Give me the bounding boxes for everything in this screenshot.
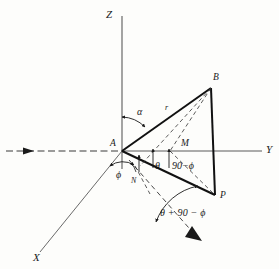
segment-label-r: r [165, 104, 168, 112]
lower-construction-ray-arrowhead [185, 226, 202, 241]
angle-label-theta: θ [155, 161, 160, 171]
angle-label-alpha: α [137, 107, 142, 117]
angle-label-phi: ϕ [116, 170, 121, 180]
axis-label-z: Z [106, 9, 112, 20]
point-label-m: M [181, 139, 189, 149]
geometry-figure: Z Y X A B P M N α ϕ θ 90−ϕ r θ + 90 − ϕ [0, 0, 279, 269]
axis-label-y: Y [266, 144, 272, 155]
segment-ab [122, 88, 211, 151]
figure-canvas [0, 0, 279, 269]
reference-ray-arrowhead [23, 147, 34, 154]
point-label-b: B [213, 73, 219, 83]
segment-b-to-a-median-dashed [140, 88, 211, 166]
expression-label-theta-plus-90-minus-phi: θ + 90 − ϕ [160, 208, 206, 218]
point-label-a: A [110, 139, 116, 149]
point-label-n: N [131, 177, 136, 185]
point-label-p: P [220, 191, 226, 201]
angle-label-ninety-minus-phi: 90−ϕ [172, 161, 194, 171]
segment-ap [122, 151, 215, 195]
axis-label-x: X [33, 252, 40, 263]
x-axis-line [40, 151, 122, 252]
segment-n-dashed [135, 166, 150, 194]
segment-b-to-m-dashed [170, 88, 211, 151]
segment-m-to-p-dashed [170, 151, 215, 195]
segment-bp [211, 88, 215, 195]
angle-arc-alpha [122, 117, 145, 127]
